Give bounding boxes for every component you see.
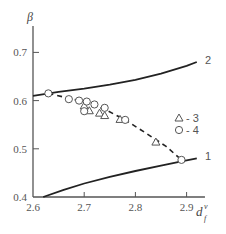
legend-triangle-icon	[175, 114, 183, 121]
circle-marker	[83, 98, 90, 105]
y-axis-title: β	[26, 10, 33, 24]
circle-marker	[81, 108, 88, 115]
legend-label-4: - 4	[186, 124, 199, 136]
y-tick-label: 0.6	[13, 95, 27, 107]
y-tick-label: 0.7	[13, 46, 27, 58]
circle-marker	[75, 97, 82, 104]
x-tick-label: 2.8	[129, 201, 143, 213]
x-tick-label: 2.7	[77, 201, 91, 213]
curve-label-2: 2	[205, 54, 211, 66]
x-axis-title-sub: f	[204, 214, 208, 223]
y-tick-label: 0.5	[13, 143, 27, 155]
data-points	[45, 90, 185, 164]
chart: 2.62.72.82.90.40.50.60.7 βdvf21- 3- 4	[0, 0, 226, 234]
circle-marker	[101, 104, 108, 111]
curve-label-1: 1	[205, 150, 211, 162]
curve-1	[43, 158, 197, 197]
circle-marker	[45, 90, 52, 97]
x-axis-title-sup: v	[204, 202, 208, 211]
y-tick-label: 0.4	[13, 191, 27, 203]
x-axis-title: d	[196, 204, 203, 219]
legend-circle-icon	[175, 126, 182, 133]
x-tick-label: 2.6	[26, 201, 40, 213]
curve-2	[33, 62, 197, 96]
circle-marker	[91, 101, 98, 108]
curves	[33, 62, 197, 197]
legend-label-3: - 3	[186, 112, 199, 124]
circle-marker	[65, 96, 72, 103]
circle-marker	[178, 156, 185, 163]
curve-fit	[48, 93, 181, 159]
circle-marker	[122, 116, 129, 123]
x-tick-label: 2.9	[180, 201, 194, 213]
